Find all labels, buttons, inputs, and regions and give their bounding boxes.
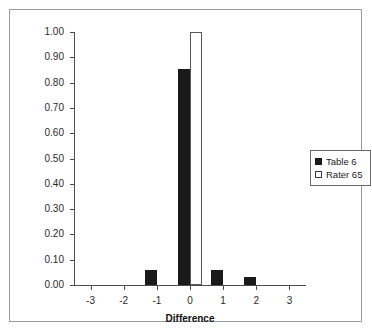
x-tick-label: -1 bbox=[142, 294, 172, 307]
x-tick bbox=[223, 285, 224, 290]
y-tick-label: 0.20 bbox=[45, 227, 64, 240]
x-tick bbox=[91, 285, 92, 290]
x-tick-label: 3 bbox=[274, 294, 304, 307]
bar bbox=[145, 270, 157, 285]
bar bbox=[244, 277, 256, 285]
legend-item-rater-65: Rater 65 bbox=[315, 168, 366, 180]
y-tick: 0.20 bbox=[70, 234, 75, 235]
y-tick: 0.10 bbox=[70, 260, 75, 261]
y-tick: 1.00 bbox=[70, 32, 75, 33]
bar bbox=[178, 69, 190, 285]
x-axis-title: Difference bbox=[74, 313, 306, 324]
y-tick: 0.00 bbox=[70, 285, 75, 286]
x-tick-label: -3 bbox=[76, 294, 106, 307]
y-tick: 0.40 bbox=[70, 184, 75, 185]
legend-label-rater-65: Rater 65 bbox=[326, 169, 362, 180]
x-tick bbox=[124, 285, 125, 290]
y-tick-label: 0.00 bbox=[45, 278, 64, 291]
y-tick-label: 0.60 bbox=[45, 126, 64, 139]
y-tick-label: 0.30 bbox=[45, 202, 64, 215]
y-tick: 0.70 bbox=[70, 108, 75, 109]
legend-swatch-icon-table-6 bbox=[315, 158, 322, 165]
y-tick: 0.90 bbox=[70, 57, 75, 58]
y-tick-label: 0.50 bbox=[45, 152, 64, 165]
y-tick: 0.80 bbox=[70, 83, 75, 84]
chart-figure: 1.000.900.800.700.600.500.400.300.200.10… bbox=[0, 0, 372, 334]
bar bbox=[211, 270, 223, 285]
y-tick-label: 0.10 bbox=[45, 253, 64, 266]
legend-label-table-6: Table 6 bbox=[326, 156, 357, 167]
y-tick-label: 0.40 bbox=[45, 177, 64, 190]
y-tick: 0.50 bbox=[70, 159, 75, 160]
chart-legend: Table 6 Rater 65 bbox=[310, 150, 371, 186]
y-tick-label: 0.90 bbox=[45, 50, 64, 63]
figure-border: 1.000.900.800.700.600.500.400.300.200.10… bbox=[9, 9, 362, 322]
x-tick-label: -2 bbox=[109, 294, 139, 307]
y-tick-label: 0.70 bbox=[45, 101, 64, 114]
x-tick bbox=[157, 285, 158, 290]
y-tick: 0.30 bbox=[70, 209, 75, 210]
legend-swatch-icon-rater-65 bbox=[315, 171, 322, 178]
y-tick-label: 1.00 bbox=[45, 25, 64, 38]
x-tick-label: 0 bbox=[175, 294, 205, 307]
bar bbox=[190, 32, 202, 285]
plot-area: 1.000.900.800.700.600.500.400.300.200.10… bbox=[74, 32, 306, 286]
legend-item-table-6: Table 6 bbox=[315, 155, 366, 167]
x-tick bbox=[289, 285, 290, 290]
y-tick: 0.60 bbox=[70, 133, 75, 134]
x-tick-label: 2 bbox=[241, 294, 271, 307]
x-tick bbox=[256, 285, 257, 290]
y-tick-label: 0.80 bbox=[45, 76, 64, 89]
x-tick-label: 1 bbox=[208, 294, 238, 307]
x-tick bbox=[190, 285, 191, 290]
